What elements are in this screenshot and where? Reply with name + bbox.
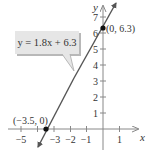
x-tick-label: −1 xyxy=(81,134,92,145)
equation-label: y = 1.8x + 6.3 xyxy=(17,37,76,48)
y-tick-label: 3 xyxy=(93,76,98,87)
x-tick-label: −2 xyxy=(65,134,76,145)
y-axis-label: y xyxy=(92,1,98,13)
y-tick-label: 1 xyxy=(93,108,98,119)
equation-callout: y = 1.8x + 6.3 xyxy=(15,31,81,71)
x-axis-label: x xyxy=(139,131,145,143)
x-tick-label: −3 xyxy=(50,134,61,145)
graph-svg: −5 −3 −2 −1 1 x 1 2 3 4 5 6 xyxy=(0,0,149,160)
x-tick-label: −5 xyxy=(16,134,27,145)
y-intercept-label: (0, 6.3) xyxy=(106,23,135,35)
y-tick-label: 4 xyxy=(93,60,98,71)
y-tick-label: 7 xyxy=(93,12,98,23)
x-tick-label: 1 xyxy=(117,134,122,145)
graph-figure: −5 −3 −2 −1 1 x 1 2 3 4 5 6 xyxy=(0,0,149,160)
line-series xyxy=(38,3,116,147)
x-axis: −5 −3 −2 −1 1 x xyxy=(8,126,145,145)
y-tick-label: 5 xyxy=(93,44,98,55)
x-intercept-label: (−3.5, 0) xyxy=(13,115,48,127)
y-tick-label: 2 xyxy=(93,92,98,103)
y-intercept-point: (0, 6.3) xyxy=(100,23,135,35)
